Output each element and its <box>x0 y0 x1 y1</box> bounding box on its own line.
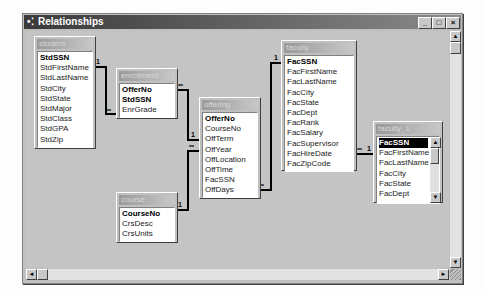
table-course[interactable]: course CourseNo CrsDesc CrsUnits <box>116 192 178 243</box>
relationships-canvas[interactable]: 1 ∞ ∞ 1 1 ∞ 1 ∞ ∞ 1 student StdSSN StdFi… <box>26 31 449 268</box>
field-item[interactable]: CourseNo <box>122 209 172 219</box>
field-item[interactable]: OfferNo <box>122 85 172 95</box>
field-item[interactable]: CrsUnits <box>122 229 172 239</box>
field-item[interactable]: FacDept <box>379 189 428 199</box>
vertical-scroll-thumb[interactable] <box>450 42 461 54</box>
scroll-up-button[interactable]: ▲ <box>450 31 461 42</box>
cardinality-many-label: ∞ <box>178 81 183 88</box>
table-title[interactable]: offering <box>202 100 258 110</box>
scroll-left-button[interactable]: ◄ <box>26 269 37 280</box>
field-item[interactable]: StdZip <box>40 135 90 145</box>
field-item[interactable]: FacState <box>287 98 351 108</box>
resize-grip[interactable] <box>450 269 461 280</box>
window-menu-icon[interactable]: •⁚ <box>27 15 34 29</box>
scroll-right-button[interactable]: ► <box>438 269 449 280</box>
table-enrollment[interactable]: enrollment OfferNo StdSSN EnrGrade <box>116 68 178 119</box>
window-title: Relationships <box>38 15 104 29</box>
table-faculty[interactable]: faculty FacSSN FacFirstName FacLastName … <box>281 40 357 171</box>
field-item[interactable]: StdState <box>40 94 90 104</box>
relationship-line[interactable] <box>270 62 272 190</box>
field-item[interactable]: EnrGrade <box>122 105 172 115</box>
scroll-up-button[interactable]: ▲ <box>430 137 441 148</box>
scroll-down-button[interactable]: ▼ <box>430 192 441 203</box>
field-item[interactable]: FacSalary <box>287 128 351 138</box>
cardinality-one-label: 1 <box>178 201 182 208</box>
field-item[interactable]: OffTime <box>205 165 255 175</box>
field-item[interactable]: FacZipCode <box>287 159 351 169</box>
title-bar[interactable]: •⁚ Relationships _ □ × <box>24 15 461 29</box>
maximize-button[interactable]: □ <box>432 17 446 29</box>
field-item[interactable]: FacSupervisor <box>287 139 351 149</box>
field-item[interactable]: FacHireDate <box>287 149 351 159</box>
table-student[interactable]: student StdSSN StdFirstName StdLastName … <box>34 36 96 149</box>
relationship-line[interactable] <box>356 153 374 155</box>
cardinality-one-label: 1 <box>191 131 195 138</box>
field-item[interactable]: OffLocation <box>205 155 255 165</box>
cardinality-one-label: 1 <box>274 54 278 61</box>
field-item[interactable]: StdSSN <box>40 53 90 63</box>
cardinality-one-label: 1 <box>96 58 100 65</box>
field-item[interactable]: CrsDesc <box>122 219 172 229</box>
field-item[interactable]: FacCity <box>287 88 351 98</box>
table-title[interactable]: enrollment <box>119 71 175 81</box>
field-list[interactable]: OfferNo CourseNo OffTerm OffYear OffLoca… <box>202 112 258 198</box>
table-title[interactable]: faculty_1 <box>376 124 440 134</box>
cardinality-many-label: ∞ <box>106 106 111 113</box>
field-item[interactable]: OffDays <box>205 185 255 195</box>
relationship-line[interactable] <box>187 89 189 140</box>
table-offering[interactable]: offering OfferNo CourseNo OffTerm OffYea… <box>199 97 261 199</box>
minimize-button[interactable]: _ <box>418 17 432 29</box>
field-list[interactable]: OfferNo StdSSN EnrGrade <box>119 83 175 118</box>
field-item[interactable]: StdSSN <box>122 95 172 105</box>
field-item[interactable]: StdFirstName <box>40 63 90 73</box>
field-list[interactable]: FacSSN FacFirstName FacLastName FacCity … <box>376 136 440 204</box>
field-item[interactable]: FacSSN <box>287 57 351 67</box>
relationship-line[interactable] <box>105 113 116 115</box>
table-title[interactable]: course <box>119 195 175 205</box>
field-item[interactable]: OffYear <box>205 145 255 155</box>
field-list[interactable]: FacSSN FacFirstName FacLastName FacCity … <box>284 55 354 172</box>
table-title[interactable]: student <box>37 39 93 49</box>
field-item[interactable]: StdMajor <box>40 104 90 114</box>
field-item[interactable]: FacFirstName <box>287 67 351 77</box>
table-title[interactable]: faculty <box>284 43 354 53</box>
field-item[interactable]: FacCity <box>379 169 428 179</box>
field-item[interactable]: FacDept <box>287 108 351 118</box>
field-item[interactable]: OffTerm <box>205 134 255 144</box>
field-item[interactable]: FacFirstName <box>379 148 428 158</box>
close-button[interactable]: × <box>446 17 460 29</box>
horizontal-scroll-thumb[interactable] <box>37 269 48 280</box>
cardinality-one-label: 1 <box>367 145 371 152</box>
field-item[interactable]: CourseNo <box>205 124 255 134</box>
relationship-line[interactable] <box>187 139 199 141</box>
field-list[interactable]: CourseNo CrsDesc CrsUnits <box>119 207 175 242</box>
scroll-down-button[interactable]: ▼ <box>450 257 461 268</box>
relationships-window: •⁚ Relationships _ □ × 1 ∞ ∞ 1 1 ∞ 1 ∞ ∞… <box>22 13 463 284</box>
field-item[interactable]: StdLastName <box>40 73 90 83</box>
vertical-scrollbar[interactable]: ▲ ▼ <box>450 31 461 268</box>
field-item[interactable]: FacLastName <box>379 158 428 168</box>
field-list[interactable]: StdSSN StdFirstName StdLastName StdCity … <box>37 51 93 148</box>
relationship-line[interactable] <box>187 151 189 211</box>
field-item[interactable]: FacRank <box>287 118 351 128</box>
field-item[interactable]: FacState <box>379 179 428 189</box>
cardinality-many-label: ∞ <box>189 142 194 149</box>
field-item[interactable]: StdGPA <box>40 124 90 134</box>
table-faculty-1[interactable]: faculty_1 FacSSN FacFirstName FacLastNam… <box>373 121 443 203</box>
scroll-thumb[interactable] <box>430 148 439 164</box>
field-item-selected[interactable]: FacSSN <box>379 138 428 148</box>
field-item[interactable]: StdClass <box>40 114 90 124</box>
field-item[interactable]: OfferNo <box>205 114 255 124</box>
cardinality-many-label: ∞ <box>357 145 362 152</box>
relationship-line[interactable] <box>187 150 199 152</box>
field-item[interactable]: StdCity <box>40 84 90 94</box>
field-list-scrollbar[interactable]: ▲ ▼ <box>430 137 439 203</box>
horizontal-scrollbar[interactable]: ◄ ► <box>26 269 449 280</box>
field-item[interactable]: FacSSN <box>205 175 255 185</box>
field-item[interactable]: FacLastName <box>287 77 351 87</box>
